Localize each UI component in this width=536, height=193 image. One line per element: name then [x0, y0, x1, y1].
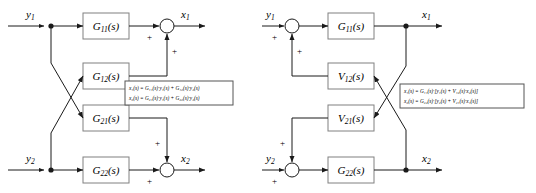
- signal-x1-output-right: [374, 23, 442, 28]
- block-V21[interactable]: V21(s): [328, 105, 374, 131]
- equation-right-2: x₂(s) = G₂₂(s)·[y₂(s) + V₂₁(s)·x₁(s)]: [403, 98, 478, 105]
- signal-x2-output-right: [374, 167, 442, 172]
- block-G11-right[interactable]: G11(s): [328, 13, 374, 39]
- summing-junction-2[interactable]: [160, 163, 174, 177]
- signal-y1-input: [8, 23, 83, 28]
- equation-right-1: x₁(s) = G₁₁(s)·[y₁(s) + V₁₂(s)·x₂(s)]: [403, 88, 478, 95]
- sign-plus-r-sum2-top: +: [280, 138, 285, 148]
- equation-box-right: x₁(s) = G₁₁(s)·[y₁(s) + V₁₂(s)·x₂(s)] x₂…: [400, 84, 524, 108]
- label-x1-right: x1: [421, 8, 431, 22]
- figure-canvas: G11(s) G12(s) G21(s) G22(s): [0, 0, 536, 193]
- block-diagram-figure: G11(s) G12(s) G21(s) G22(s): [0, 0, 536, 193]
- signal-G21-to-sum2: [129, 118, 167, 162]
- equation-left-2: x₂(s) = G₂₁(s)·y₁(s) + G₂₂(s)·y₂(s): [128, 95, 200, 102]
- label-y1-right: y1: [265, 8, 275, 22]
- summing-junction-1-right[interactable]: [285, 19, 299, 33]
- label-y1-left: y1: [25, 8, 35, 22]
- block-G22-right[interactable]: G22(s): [328, 157, 374, 183]
- equation-box-left: x₁(s) = G₁₁(s)·y₁(s) + G₁₂(s)·y₂(s) x₂(s…: [125, 81, 233, 105]
- sign-plus-r-sum2-left: +: [272, 176, 277, 186]
- block-G22[interactable]: G22(s): [83, 157, 129, 183]
- label-y2-left: y2: [25, 152, 35, 166]
- block-G21[interactable]: G21(s): [83, 105, 129, 131]
- signal-V21-to-sum2-right: [292, 118, 328, 162]
- left-diagram: G11(s) G12(s) G21(s) G22(s): [8, 8, 233, 186]
- sign-plus-sum2-top: +: [155, 138, 160, 148]
- block-V12[interactable]: V12(s): [328, 63, 374, 89]
- sign-plus-r-sum1-bottom: +: [297, 46, 302, 56]
- summing-junction-2-right[interactable]: [285, 163, 299, 177]
- label-x2-left: x2: [180, 152, 190, 166]
- sign-plus-r-sum1-left: +: [272, 32, 277, 42]
- equation-left-1: x₁(s) = G₁₁(s)·y₁(s) + G₁₂(s)·y₂(s): [128, 85, 200, 92]
- right-diagram: G11(s) V12(s) V21(s) G22(s): [262, 8, 524, 186]
- sign-plus-sum1-bottom: +: [172, 46, 177, 56]
- sign-plus-sum1-left: +: [147, 32, 152, 42]
- label-y2-right: y2: [265, 152, 275, 166]
- label-x2-right: x2: [421, 152, 431, 166]
- sign-plus-sum2-left: +: [147, 176, 152, 186]
- block-G12[interactable]: G12(s): [83, 63, 129, 89]
- signal-y2-input: [8, 167, 83, 172]
- block-G11[interactable]: G11(s): [83, 13, 129, 39]
- summing-junction-1[interactable]: [160, 19, 174, 33]
- label-x1-left: x1: [180, 8, 190, 22]
